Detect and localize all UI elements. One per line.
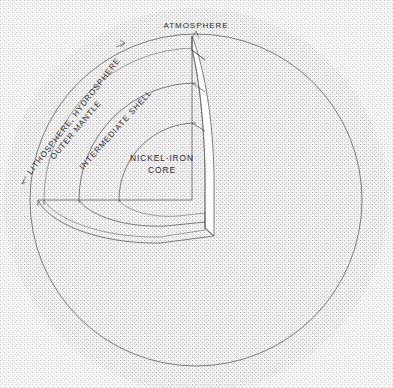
label-core-line1: NICKEL-IRON xyxy=(130,153,194,163)
label-atmosphere-text: ATMOSPHERE xyxy=(163,21,228,30)
earth-cutaway-diagram: ATMOSPHERE LITHOSPHERE, HYDROSPHERE OUTE… xyxy=(0,0,393,388)
earth-diagram-canvas: ATMOSPHERE LITHOSPHERE, HYDROSPHERE OUTE… xyxy=(0,0,393,388)
label-core-line2: CORE xyxy=(148,165,176,175)
